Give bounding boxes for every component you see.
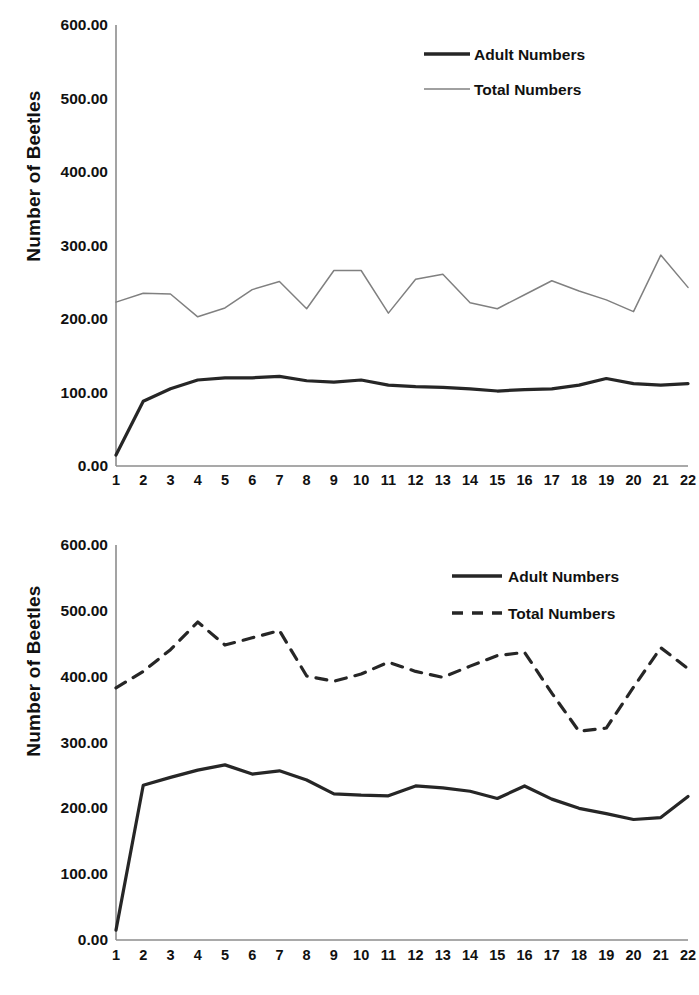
legend-item-adult-bottom: Adult Numbers [508,568,619,586]
y-tick-label: 400.00 [36,668,108,686]
x-tick-label: 19 [592,947,620,963]
legend-item-adult-top: Adult Numbers [474,46,585,64]
y-tick-label: 200.00 [36,310,108,328]
x-tick-label: 22 [674,472,699,488]
x-tick-label: 11 [374,947,402,963]
x-tick-label: 16 [511,472,539,488]
x-tick-label: 7 [265,947,293,963]
x-tick-label: 9 [320,472,348,488]
y-tick-label: 0.00 [36,931,108,949]
x-tick-label: 11 [374,472,402,488]
x-tick-label: 1 [102,947,130,963]
x-tick-label: 3 [156,947,184,963]
y-tick-label: 300.00 [36,734,108,752]
x-tick-label: 6 [238,472,266,488]
x-tick-label: 21 [647,472,675,488]
x-tick-label: 10 [347,947,375,963]
x-tick-label: 2 [129,947,157,963]
x-tick-label: 8 [293,472,321,488]
x-tick-label: 17 [538,947,566,963]
series-line-total-numbers [116,255,688,317]
x-tick-label: 4 [184,947,212,963]
x-tick-label: 12 [402,947,430,963]
legend-item-total-top: Total Numbers [474,81,581,99]
x-tick-label: 14 [456,947,484,963]
legend-item-total-bottom: Total Numbers [508,605,615,623]
y-tick-label: 500.00 [36,602,108,620]
x-tick-label: 4 [184,472,212,488]
x-tick-label: 20 [620,472,648,488]
x-tick-label: 21 [647,947,675,963]
x-tick-label: 9 [320,947,348,963]
chart-panel-top: Number of Beetles 600.00500.00400.00300.… [0,0,699,500]
x-tick-label: 3 [156,472,184,488]
chart-panel-bottom: Number of Beetles 600.00500.00400.00300.… [0,500,699,995]
y-tick-label: 100.00 [36,384,108,402]
y-tick-label: 500.00 [36,90,108,108]
y-tick-label: 300.00 [36,237,108,255]
y-tick-label: 0.00 [36,457,108,475]
x-tick-label: 8 [293,947,321,963]
x-tick-label: 12 [402,472,430,488]
x-tick-label: 15 [483,472,511,488]
x-tick-label: 5 [211,947,239,963]
x-tick-label: 1 [102,472,130,488]
y-tick-label: 100.00 [36,865,108,883]
y-tick-label: 200.00 [36,799,108,817]
x-tick-label: 5 [211,472,239,488]
series-line-total-numbers [116,622,688,731]
y-tick-label: 600.00 [36,16,108,34]
x-tick-label: 13 [429,947,457,963]
figure-page: Number of Beetles 600.00500.00400.00300.… [0,0,699,995]
x-tick-label: 14 [456,472,484,488]
x-tick-label: 13 [429,472,457,488]
x-tick-label: 17 [538,472,566,488]
x-tick-label: 18 [565,472,593,488]
x-tick-label: 18 [565,947,593,963]
y-tick-label: 600.00 [36,536,108,554]
x-tick-label: 16 [511,947,539,963]
x-tick-label: 20 [620,947,648,963]
x-tick-label: 22 [674,947,699,963]
x-tick-label: 19 [592,472,620,488]
x-tick-label: 15 [483,947,511,963]
series-line-adult-numbers [116,376,688,455]
x-tick-label: 10 [347,472,375,488]
x-tick-label: 6 [238,947,266,963]
x-tick-label: 7 [265,472,293,488]
series-line-adult-numbers [116,765,688,930]
x-tick-label: 2 [129,472,157,488]
y-tick-label: 400.00 [36,163,108,181]
